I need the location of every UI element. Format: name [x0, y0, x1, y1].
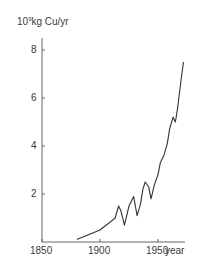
- y-tick-label: 2: [31, 188, 37, 199]
- y-axis-label-unit: kg Cu/yr: [31, 16, 68, 27]
- y-tick-label: 6: [31, 92, 37, 103]
- x-tick-label: 1900: [88, 245, 110, 256]
- y-axis-label-base: 10: [17, 16, 28, 27]
- y-axis-label: 109kg Cu/yr: [17, 16, 69, 27]
- production-line: [77, 62, 184, 240]
- x-tick-label: 1850: [30, 245, 52, 256]
- chart-canvas: [0, 0, 212, 272]
- x-axis-label: year: [165, 245, 184, 256]
- y-tick-label: 8: [31, 44, 37, 55]
- y-tick-label: 4: [31, 140, 37, 151]
